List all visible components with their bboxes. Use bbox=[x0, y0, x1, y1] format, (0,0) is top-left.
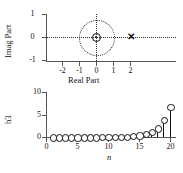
pole-zero-ytick-label: 0 bbox=[25, 33, 40, 41]
stem-marker bbox=[161, 117, 168, 124]
stem-marker bbox=[155, 125, 162, 132]
pole-zero-xtick-label: 2 bbox=[122, 67, 139, 75]
pole-zero-ytick bbox=[42, 14, 46, 15]
impulse-response-stem-plot: h3 10 5 0 0 5 10 15 20 n bbox=[0, 86, 183, 173]
stem-series bbox=[0, 86, 183, 173]
pole-zero-xtick-label: -2 bbox=[54, 67, 71, 75]
pole-zero-ytick-label: -1 bbox=[25, 56, 40, 64]
pole-zero-ytick bbox=[42, 37, 46, 38]
pole-zero-plot: Imag Part 1 0 -1 -2 -1 0 1 2 Real Part bbox=[0, 0, 183, 86]
pole-zero-xlabel: Real Part bbox=[68, 76, 99, 85]
stem-marker bbox=[167, 104, 174, 111]
pole-zero-ytick-label: 1 bbox=[25, 10, 40, 18]
pole-zero-xtick-label: -1 bbox=[71, 67, 88, 75]
pole-marker: ✕ bbox=[127, 32, 135, 42]
pole-zero-ytick bbox=[42, 60, 46, 61]
zero-center-dot bbox=[95, 36, 98, 39]
pole-zero-ylabel: Imag Part bbox=[4, 25, 13, 58]
figure-container: Imag Part 1 0 -1 -2 -1 0 1 2 Real Part bbox=[0, 0, 183, 173]
pole-zero-xtick-label: 0 bbox=[88, 67, 105, 75]
pole-zero-xtick-label: 1 bbox=[105, 67, 122, 75]
pole-zero-xaxis bbox=[46, 61, 176, 62]
